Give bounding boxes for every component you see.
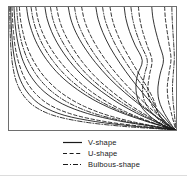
curve-dashdot bbox=[131, 7, 176, 130]
legend-swatch-dashed-icon bbox=[62, 148, 83, 159]
curves-layer bbox=[10, 7, 176, 130]
legend-item-bulbous-shape: Bulbous-shape bbox=[0, 159, 187, 170]
legend-label-u-shape: U-shape bbox=[88, 148, 117, 159]
curve-dashdot bbox=[50, 7, 175, 130]
curve-group-bulbous-shape bbox=[10, 7, 176, 130]
curve-dashed bbox=[19, 7, 174, 130]
footer-divider bbox=[0, 175, 187, 176]
legend: V-shape U-shape Bulbous-shape bbox=[0, 137, 187, 171]
legend-item-v-shape: V-shape bbox=[0, 137, 187, 148]
legend-swatch-dashdot-icon bbox=[62, 159, 83, 170]
plot-area bbox=[8, 6, 177, 131]
figure: V-shape U-shape Bulbous-shape bbox=[0, 0, 187, 183]
curve-dashdot bbox=[172, 7, 176, 130]
legend-item-u-shape: U-shape bbox=[0, 148, 187, 159]
curve-dashed bbox=[12, 7, 174, 130]
curve-plot bbox=[9, 7, 176, 130]
legend-label-v-shape: V-shape bbox=[88, 137, 117, 148]
curve-group-u-shape bbox=[12, 7, 176, 130]
legend-swatch-solid-icon bbox=[62, 137, 83, 148]
legend-label-bulbous-shape: Bulbous-shape bbox=[88, 159, 140, 170]
